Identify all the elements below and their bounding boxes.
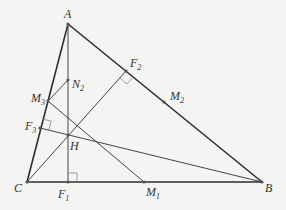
label-b: B (265, 181, 273, 195)
label-f3: F3 (24, 119, 36, 135)
label-m2: M2 (169, 89, 184, 105)
point-f2 (124, 69, 127, 72)
point-b (260, 180, 263, 183)
point-n2 (66, 78, 69, 81)
point-m2 (162, 100, 165, 103)
label-n2: N2 (71, 77, 84, 93)
segment-m3-m1 (48, 101, 144, 182)
point-c (25, 180, 28, 183)
point-f1 (66, 180, 69, 183)
point-f3 (38, 126, 41, 129)
right-angle-f1 (68, 173, 77, 182)
point-a (66, 22, 69, 25)
point-h (66, 133, 69, 136)
triangle-diagram: A B C F1 F2 F3 M1 M2 M3 N2 H (0, 0, 286, 210)
label-h: H (69, 139, 80, 153)
right-angle-f2 (120, 77, 133, 84)
point-m1 (142, 180, 145, 183)
label-a: A (63, 7, 72, 21)
point-m3 (46, 99, 49, 102)
label-f2: F2 (129, 56, 141, 72)
label-c: C (14, 181, 23, 195)
label-m3: M3 (30, 91, 45, 107)
label-f1: F1 (57, 187, 69, 203)
label-m1: M1 (145, 185, 160, 201)
